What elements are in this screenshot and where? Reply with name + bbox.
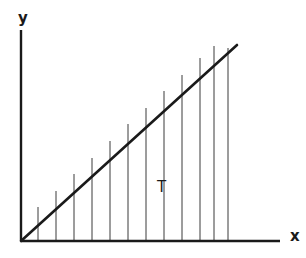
diagonal-line	[21, 45, 237, 241]
x-axis-label: x	[290, 227, 300, 245]
y-axis-label: y	[18, 9, 28, 27]
region-label-T: T	[156, 178, 167, 196]
triangle-partition-diagram: x y T	[0, 0, 306, 258]
partition-strip-group	[38, 46, 228, 241]
figure-canvas: x y T	[0, 0, 306, 258]
